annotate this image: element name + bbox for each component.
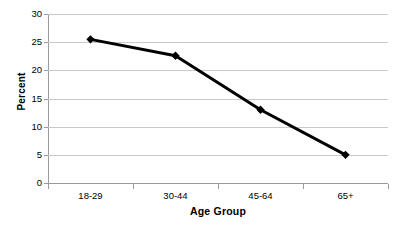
y-axis-tick-mark (44, 70, 48, 71)
gridline (48, 155, 388, 156)
y-axis-tick-label: 0 (18, 178, 46, 188)
y-axis-tick-mark (44, 14, 48, 15)
x-axis-tick-mark (48, 184, 49, 189)
y-axis-tick-mark (44, 42, 48, 43)
y-axis-tick-mark (44, 155, 48, 156)
y-axis-tick-label: 10 (18, 122, 46, 132)
y-axis-tick-label: 5 (18, 150, 46, 160)
x-axis-category-label: 18-29 (78, 190, 102, 201)
x-axis-category-label: 65+ (337, 190, 353, 201)
y-axis-tick-label: 25 (18, 37, 46, 47)
x-axis-category-label: 30-44 (163, 190, 187, 201)
gridline (48, 99, 388, 100)
x-axis-tick-mark (303, 184, 304, 189)
x-axis-category-label: 45-64 (248, 190, 272, 201)
x-axis-title: Age Group (48, 205, 388, 217)
y-axis-tick-label: 30 (18, 9, 46, 19)
y-axis-tick-label: 15 (18, 94, 46, 104)
y-axis-tick-mark (44, 99, 48, 100)
line-chart: Percent 051015202530 Age Group 18-2930-4… (0, 0, 401, 229)
y-axis-tick-label: 20 (18, 66, 46, 76)
gridline (48, 127, 388, 128)
y-axis-tick-mark (44, 127, 48, 128)
x-axis-tick-mark (133, 184, 134, 189)
plot-area (48, 14, 388, 183)
x-axis-tick-mark (388, 184, 389, 189)
gridline (48, 14, 388, 15)
gridline (48, 42, 388, 43)
y-axis-tick-labels: 051015202530 (18, 0, 46, 229)
gridline (48, 70, 388, 71)
x-axis-tick-mark (218, 184, 219, 189)
